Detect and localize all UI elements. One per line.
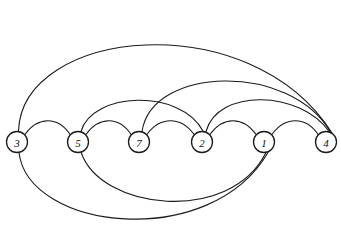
graph-node-7[interactable]: 7 — [129, 132, 150, 153]
graph-edge-5-1 — [81, 152, 266, 201]
node-circle-4[interactable] — [316, 132, 337, 153]
graph-node-1[interactable]: 1 — [254, 132, 275, 153]
graph-edge-7-4 — [142, 81, 331, 132]
graph-node-2[interactable]: 2 — [192, 132, 213, 153]
node-circle-5[interactable] — [68, 132, 89, 153]
graph-edge-7-2 — [147, 121, 195, 135]
graph-edge-3-1 — [19, 153, 268, 220]
graph-edge-3-4 — [19, 45, 333, 133]
node-circle-3[interactable] — [7, 132, 28, 153]
nodes-layer: 357214 — [7, 132, 337, 153]
node-circle-7[interactable] — [129, 132, 150, 153]
graph-edge-5-7 — [86, 121, 132, 135]
node-circle-1[interactable] — [254, 132, 275, 153]
graph-edge-2-4 — [206, 100, 330, 132]
graph-edge-3-5 — [25, 121, 71, 135]
node-circle-2[interactable] — [192, 132, 213, 153]
edges-layer — [19, 45, 333, 219]
graph-edge-1-4 — [272, 121, 319, 135]
graph-node-4[interactable]: 4 — [316, 132, 337, 153]
graph-edge-5-2 — [81, 100, 203, 131]
graph-node-3[interactable]: 3 — [7, 132, 28, 153]
graph-edge-2-1 — [210, 121, 257, 135]
graph-svg: 357214 — [0, 0, 341, 250]
graph-node-5[interactable]: 5 — [68, 132, 89, 153]
diagram-canvas: 357214 — [0, 0, 341, 250]
